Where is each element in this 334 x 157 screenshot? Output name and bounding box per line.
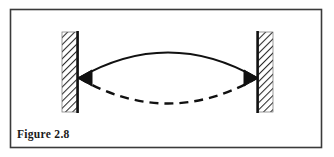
figure-panel: Figure 2.8 bbox=[0, 0, 334, 157]
left-wall-hatch bbox=[62, 32, 77, 112]
right-wall-hatch bbox=[258, 32, 273, 112]
figure-caption: Figure 2.8 bbox=[17, 129, 70, 141]
right-fixed-support bbox=[258, 31, 273, 113]
left-fixed-support bbox=[62, 31, 78, 113]
figure-border bbox=[11, 10, 322, 148]
